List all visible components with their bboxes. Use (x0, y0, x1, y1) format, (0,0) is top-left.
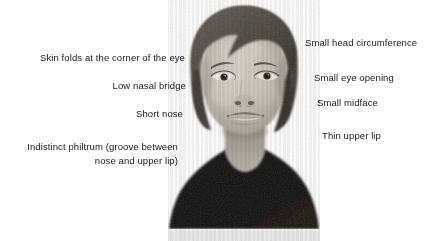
annotation-skin-folds-corner-of-eye: Skin folds at the corner of the eye (15, 51, 185, 64)
annotation-low-nasal-bridge: Low nasal bridge (16, 79, 186, 92)
annotation-small-head-circumference: Small head circumference (305, 36, 429, 49)
annotation-small-eye-opening: Small eye opening (314, 71, 429, 84)
annotation-indistinct-philtrum-line1: Indistinct philtrum (groove between (0, 140, 178, 153)
annotation-small-midface: Small midface (317, 96, 429, 109)
photo-svg (168, 0, 320, 241)
annotated-facial-features-figure: Skin folds at the corner of the eye Low … (0, 0, 429, 241)
annotation-short-nose: Short nose (13, 107, 183, 120)
photo-baseline-strip (168, 229, 320, 241)
chin-shading (234, 125, 256, 133)
subject-photograph (168, 0, 320, 241)
annotation-indistinct-philtrum-line2: nose and upper lip) (0, 154, 178, 167)
annotation-thin-upper-lip: Thin upper lip (322, 129, 428, 142)
